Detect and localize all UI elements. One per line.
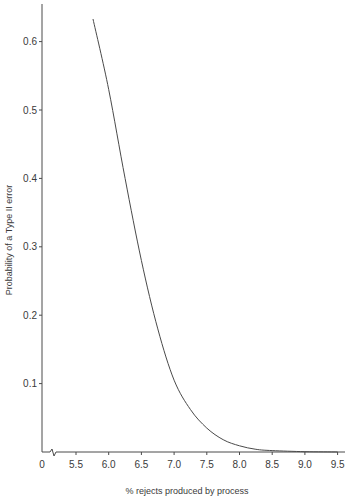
x-axis: 05.56.06.57.07.58.08.59.09.5 xyxy=(39,449,345,470)
x-axis-line-with-break xyxy=(42,449,345,456)
y-tick-label: 0.3 xyxy=(23,241,37,252)
x-axis-title: % rejects produced by process xyxy=(125,486,249,496)
y-tick-label: 0.1 xyxy=(23,378,37,389)
y-axis: 0.10.20.30.40.50.6 xyxy=(23,4,42,452)
y-tick-label: 0.6 xyxy=(23,36,37,47)
x-tick-label: 9.5 xyxy=(331,459,345,470)
x-tick-label: 7.5 xyxy=(200,459,214,470)
x-tick-label: 6.5 xyxy=(134,459,148,470)
x-tick-label: 5.5 xyxy=(69,459,83,470)
y-tick-label: 0.2 xyxy=(23,310,37,321)
type-ii-error-curve xyxy=(93,19,338,452)
chart: 0.10.20.30.40.50.6 05.56.06.57.07.58.08.… xyxy=(0,0,357,503)
y-axis-title: Probability of a Type II error xyxy=(4,185,14,295)
y-tick-label: 0.4 xyxy=(23,173,37,184)
x-tick-label: 6.0 xyxy=(102,459,116,470)
x-tick-label: 9.0 xyxy=(298,459,312,470)
x-tick-label: 0 xyxy=(39,459,45,470)
x-tick-label: 7.0 xyxy=(167,459,181,470)
y-tick-label: 0.5 xyxy=(23,105,37,116)
x-tick-label: 8.0 xyxy=(233,459,247,470)
x-tick-label: 8.5 xyxy=(265,459,279,470)
